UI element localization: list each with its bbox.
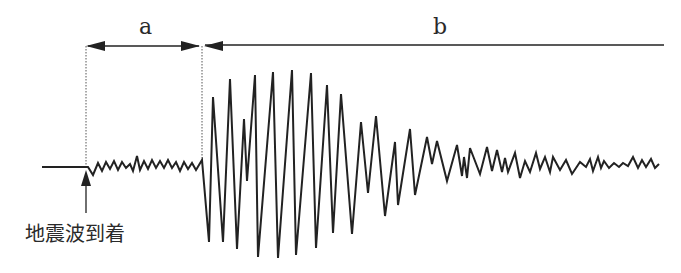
interval-b-label: b [433, 14, 447, 39]
interval-b-arrow [204, 41, 664, 51]
interval-a-label: a [139, 14, 152, 39]
arrival-arrow-icon [81, 170, 91, 213]
arrival-label: 地震波到着 [25, 218, 125, 247]
seismic-waveform [42, 70, 659, 258]
interval-a-arrow [86, 41, 200, 51]
